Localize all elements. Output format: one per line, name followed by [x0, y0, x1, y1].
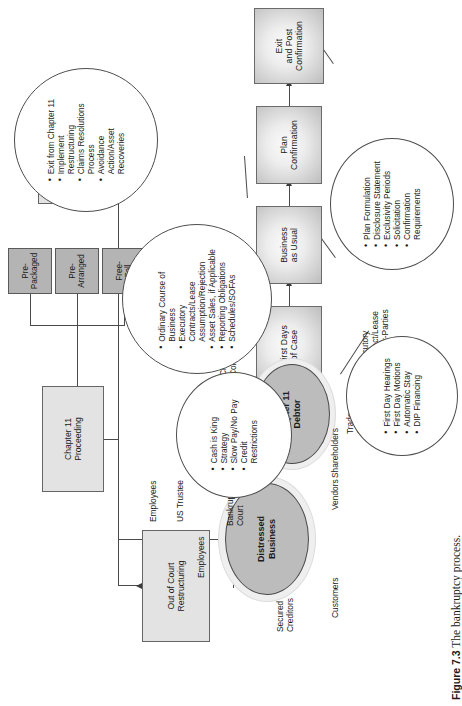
callout-item: AvoidanceAction/AssetRecoveries: [96, 99, 126, 181]
diagram-root: Out of CourtRestructuring Chapter 11Proc…: [0, 0, 462, 706]
connector-variant-prearranged: [77, 294, 78, 326]
connector-proceeding-out: [77, 326, 78, 386]
figure-number: Figure 7.3: [450, 650, 462, 700]
callout-plan-confirmation[interactable]: Plan Formulation Disclosure Statement Ex…: [330, 138, 454, 270]
figure-caption: Figure 7.3 The bankruptcy process.: [450, 535, 462, 700]
callout-item: Automatic Stay: [402, 358, 412, 434]
callout-item: ConfirmationRequirements: [402, 161, 422, 247]
label-stakeholder-shareholders: Shareholders: [330, 428, 340, 478]
label-stakeholder-secured-creditors-distressed: SecuredCreditors: [275, 598, 295, 632]
callout-item: Exit from Chapter 11: [46, 99, 56, 181]
label-stakeholder-customers-distressed: Customers: [330, 578, 340, 619]
callout-item: Asset Sales, if Applicable: [207, 249, 217, 349]
connector-to-chapter11: [104, 439, 118, 440]
connector-plan-to-exit: [289, 84, 290, 106]
box-chapter11-proceeding[interactable]: Chapter 11Proceeding: [42, 386, 104, 492]
leader-plan-callout: [244, 156, 248, 198]
callout-item: Cash is King: [209, 399, 219, 470]
callout-distressed-business-list: Cash is King Strategy Slow Pay/No Pay Cr…: [209, 399, 260, 470]
label-stakeholder-employees-debtor: Employees: [148, 481, 158, 522]
callout-item: Exclusivity Periods: [382, 161, 392, 247]
callout-item: First Day Motions: [392, 358, 402, 434]
box-plan-confirmation[interactable]: PlanConfirmation: [256, 106, 322, 184]
callout-first-days-list: First Day Hearings First Day Motions Aut…: [382, 358, 422, 434]
callout-item: Solicitation: [392, 161, 402, 247]
callout-item: DIP Financing: [412, 358, 422, 434]
connector-firstdays-to-bau: [289, 284, 290, 306]
callout-item: Schedules/SOFAs: [227, 249, 237, 349]
connector-variant-prepackaged: [30, 294, 31, 326]
callout-first-days-of-case[interactable]: First Day Hearings First Day Motions Aut…: [346, 336, 458, 456]
box-pre-arranged-label: Pre-Arranged: [68, 254, 87, 288]
callout-item: ExecutoryContracts/LeaseAssumption/Rejec…: [177, 249, 207, 349]
callout-item: ImplementRestructuring: [56, 99, 76, 181]
callout-item: Strategy: [219, 399, 229, 470]
box-pre-arranged[interactable]: Pre-Arranged: [55, 248, 99, 294]
callout-plan-confirmation-list: Plan Formulation Disclosure Statement Ex…: [362, 161, 423, 247]
figure-caption-text: The bankruptcy process.: [450, 535, 462, 648]
callout-item: Plan Formulation: [362, 161, 372, 247]
callout-business-as-usual-list: Ordinary Course ofBusiness ExecutoryCont…: [157, 249, 238, 349]
entity-distressed-business-label: DistressedBusiness: [256, 516, 278, 562]
box-exit-post-confirmation-label: Exitand PostConfirmation: [274, 19, 304, 73]
connector-main-bus: [118, 146, 119, 540]
callout-distressed-business[interactable]: Cash is King Strategy Slow Pay/No Pay Cr…: [176, 372, 292, 498]
connector-bau-to-plan: [289, 184, 290, 206]
box-plan-confirmation-label: PlanConfirmation: [279, 118, 299, 172]
box-pre-packaged-label: Pre-Packaged: [21, 253, 40, 289]
figure-canvas: Out of CourtRestructuring Chapter 11Proc…: [0, 0, 462, 706]
callout-item: Claims ResolutionsProcess: [76, 99, 96, 181]
box-out-of-court-label: Out of CourtRestructuring: [166, 560, 187, 611]
callout-item: First Day Hearings: [382, 358, 392, 434]
callout-business-as-usual[interactable]: Ordinary Course ofBusiness ExecutoryCont…: [122, 224, 272, 374]
box-pre-packaged[interactable]: Pre-Packaged: [8, 248, 52, 294]
callout-item: Disclosure Statement: [372, 161, 382, 247]
box-chapter11-proceeding-label: Chapter 11Proceeding: [63, 417, 84, 460]
callout-item: Slow Pay/No Pay: [229, 399, 239, 470]
callout-item: CreditRestrictions: [239, 399, 259, 470]
label-stakeholder-us-trustee: US Trustee: [175, 480, 185, 522]
callout-item: Ordinary Course ofBusiness: [157, 249, 177, 349]
callout-exit-post-confirmation-list: Exit from Chapter 11 ImplementRestructur…: [46, 99, 127, 181]
box-business-as-usual-label: Businessas Usual: [279, 225, 299, 265]
connector-bus-left: [118, 540, 119, 586]
callout-exit-post-confirmation[interactable]: Exit from Chapter 11 ImplementRestructur…: [14, 68, 158, 212]
callout-item: Reporting Obligations: [217, 249, 227, 349]
label-stakeholder-vendors: Vendors: [330, 479, 340, 510]
label-stakeholder-employees-distressed: Employees: [196, 537, 206, 578]
box-exit-and-post-confirmation[interactable]: Exitand PostConfirmation: [254, 8, 324, 84]
